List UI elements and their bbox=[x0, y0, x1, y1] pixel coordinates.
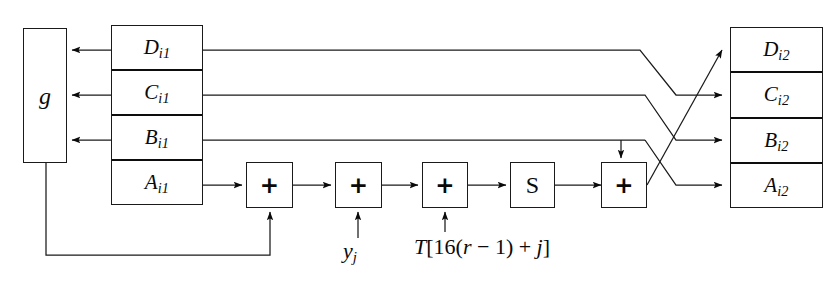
register-C-i2[interactable]: Ci2 bbox=[731, 73, 822, 118]
register-A-i2[interactable]: Ai2 bbox=[731, 164, 822, 207]
output-register-stack: Di2 Ci2 Bi2 Ai2 bbox=[730, 27, 823, 208]
register-D-i2[interactable]: Di2 bbox=[731, 28, 822, 73]
adder-4-b-feedback[interactable]: + bbox=[601, 162, 647, 208]
nonlinear-function-g[interactable]: g bbox=[23, 28, 67, 163]
register-D-i2-label: Di2 bbox=[763, 39, 790, 60]
register-A-i2-label: Ai2 bbox=[764, 175, 788, 196]
sine-table-label: T[16(r − 1) + j] bbox=[414, 236, 550, 258]
plus-icon: + bbox=[614, 174, 633, 197]
register-B-i1-label: Bi1 bbox=[145, 127, 169, 148]
wire-B-to-Ai2 bbox=[645, 140, 722, 185]
plus-icon: + bbox=[260, 174, 279, 197]
adder-2-message-word[interactable]: + bbox=[335, 162, 382, 208]
register-C-i2-label: Ci2 bbox=[764, 84, 790, 105]
adder-3-sine-table[interactable]: + bbox=[422, 162, 468, 208]
g-label: g bbox=[39, 84, 51, 108]
plus-icon: + bbox=[349, 174, 368, 197]
register-B-i1[interactable]: Bi1 bbox=[112, 116, 202, 161]
register-C-i1[interactable]: Ci1 bbox=[112, 71, 202, 116]
message-word-label: yj bbox=[343, 240, 357, 262]
register-D-i1-label: Di1 bbox=[144, 37, 171, 58]
register-B-i2-label: Bi2 bbox=[764, 130, 788, 151]
wire-adder4-to-Di2 bbox=[647, 50, 722, 185]
adder-1-g-output[interactable]: + bbox=[246, 162, 293, 208]
block-diagram: g Di1 Ci1 Bi1 Ai1 Di2 Ci2 Bi2 Ai2 + bbox=[0, 0, 839, 294]
shift-s-label: S bbox=[526, 173, 539, 197]
register-A-i1[interactable]: Ai1 bbox=[112, 161, 202, 204]
circular-shift-s[interactable]: S bbox=[510, 162, 555, 208]
register-B-i2[interactable]: Bi2 bbox=[731, 119, 822, 164]
register-C-i1-label: Ci1 bbox=[144, 82, 170, 103]
register-D-i1[interactable]: Di1 bbox=[112, 26, 202, 71]
input-register-stack: Di1 Ci1 Bi1 Ai1 bbox=[111, 25, 203, 205]
wire-C-to-Bi2 bbox=[203, 95, 722, 140]
register-A-i1-label: Ai1 bbox=[145, 172, 169, 193]
plus-icon: + bbox=[435, 174, 454, 197]
wire-D-to-Ci2 bbox=[203, 50, 722, 95]
